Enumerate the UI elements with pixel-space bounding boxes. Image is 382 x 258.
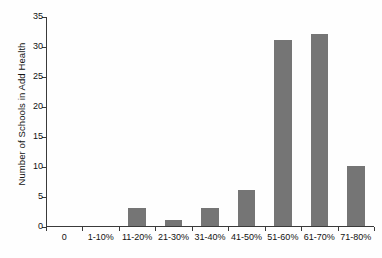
x-axis-tick-mark xyxy=(155,227,156,231)
y-axis-tick-label: 25 xyxy=(33,71,43,81)
x-axis-tick-label: 11-20% xyxy=(119,232,155,242)
x-axis-tick-mark xyxy=(119,227,120,231)
x-axis-tick-label: 21-30% xyxy=(155,232,191,242)
x-axis-tick-label: 1-10% xyxy=(82,232,118,242)
y-axis-tick-label: 10 xyxy=(33,161,43,171)
bar xyxy=(347,166,364,226)
bar xyxy=(201,208,218,226)
x-axis-tick-mark xyxy=(301,227,302,231)
x-axis-tick-mark xyxy=(46,227,47,231)
plot-area: 05101520253035 xyxy=(46,17,374,227)
x-axis-tick-label: 71-80% xyxy=(338,232,374,242)
y-axis-tick-label: 20 xyxy=(33,101,43,111)
y-axis-tick-label: 15 xyxy=(33,131,43,141)
x-axis-tick-mark xyxy=(338,227,339,231)
x-axis-tick-mark xyxy=(265,227,266,231)
x-axis-tick-label: 0 xyxy=(46,232,82,242)
x-axis-tick-mark xyxy=(192,227,193,231)
y-axis-title: Number of Schools in Add Health xyxy=(16,0,30,228)
x-axis-tick-mark xyxy=(374,227,375,231)
x-axis-tick-label: 61-70% xyxy=(301,232,337,242)
bar-chart: Number of Schools in Add Health 05101520… xyxy=(0,0,382,258)
x-axis-tick-mark xyxy=(82,227,83,231)
y-axis-line xyxy=(46,17,47,227)
bar xyxy=(274,40,291,226)
y-axis-tick-label: 5 xyxy=(38,191,43,201)
bar xyxy=(311,34,328,226)
bar xyxy=(238,190,255,226)
bar xyxy=(128,208,145,226)
y-axis-tick-label: 30 xyxy=(33,41,43,51)
x-axis-tick-label: 51-60% xyxy=(265,232,301,242)
x-axis-tick-mark xyxy=(228,227,229,231)
y-axis-tick-label: 35 xyxy=(33,11,43,21)
x-axis-tick-label: 41-50% xyxy=(228,232,264,242)
x-axis-line xyxy=(46,226,374,227)
y-axis-tick-label: 0 xyxy=(38,221,43,231)
x-axis-labels: 01-10%11-20%21-30%31-40%41-50%51-60%61-7… xyxy=(46,232,374,246)
bar xyxy=(165,220,182,226)
x-axis-tick-label: 31-40% xyxy=(192,232,228,242)
